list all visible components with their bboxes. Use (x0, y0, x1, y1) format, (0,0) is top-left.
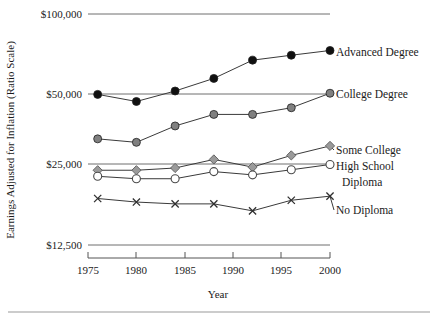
ytick-label-50000: $50,000 (46, 88, 82, 100)
x-axis (88, 252, 330, 258)
datapoint-1976 (94, 172, 102, 180)
datapoint-1988 (210, 74, 218, 82)
ytick-label-25000: $25,000 (46, 158, 82, 170)
data-series-layer (93, 46, 335, 214)
datapoint-1992 (249, 56, 257, 64)
xtick-label-2000: 2000 (319, 264, 342, 276)
series-label-high-school: High School (336, 160, 394, 173)
datapoint-1984 (171, 87, 179, 95)
ytick-label-12500: $12,500 (46, 239, 82, 251)
ytick-label-100000: $100,000 (41, 8, 83, 20)
chart-figure: $100,000 $50,000 $25,000 $12,500 1975 19… (0, 0, 438, 319)
series-label-no-diploma: No Diploma (336, 204, 393, 217)
x-axis-title: Year (208, 288, 229, 300)
datapoint-1984 (171, 122, 179, 130)
datapoint-1980 (132, 138, 140, 146)
y-axis-tick-labels: $100,000 $50,000 $25,000 $12,500 (41, 8, 83, 251)
xtick-label-1990: 1990 (222, 264, 245, 276)
datapoint-1996 (287, 104, 295, 112)
series-college-degree (94, 89, 334, 146)
datapoint-1980 (132, 97, 140, 105)
datapoint-1996 (287, 166, 295, 174)
gridlines (88, 14, 330, 245)
datapoint-2000 (326, 46, 334, 54)
x-axis-tick-labels: 1975 1980 1985 1990 1995 2000 (77, 264, 342, 276)
series-labels: Advanced Degree College Degree Some Coll… (336, 46, 419, 217)
datapoint-1988 (210, 110, 218, 118)
xtick-label-1995: 1995 (270, 264, 293, 276)
series-label-some-college: Some College (336, 144, 401, 157)
datapoint-1992 (249, 171, 257, 179)
xtick-label-1975: 1975 (77, 264, 100, 276)
series-label-high-school-line2: Diploma (342, 176, 382, 189)
datapoint-1992 (249, 110, 257, 118)
xtick-label-1980: 1980 (125, 264, 148, 276)
datapoint-2000 (326, 161, 334, 169)
datapoint-1988 (209, 155, 218, 164)
datapoint-2000 (326, 89, 334, 97)
datapoint-1984 (171, 175, 179, 183)
xtick-label-1985: 1985 (174, 264, 197, 276)
datapoint-1988 (210, 168, 218, 176)
series-advanced-degree (94, 46, 334, 105)
series-label-college-degree: College Degree (336, 88, 408, 101)
earnings-by-education-line-chart: $100,000 $50,000 $25,000 $12,500 1975 19… (0, 0, 438, 319)
series-no-diploma (94, 193, 334, 215)
datapoint-1980 (132, 175, 140, 183)
series-label-advanced-degree: Advanced Degree (336, 46, 419, 59)
y-axis-title: Earnings Adjusted for Inflation (Ratio S… (4, 41, 17, 239)
datapoint-1980 (132, 166, 141, 175)
datapoint-1984 (171, 163, 180, 172)
datapoint-1976 (94, 135, 102, 143)
datapoint-1996 (287, 151, 296, 160)
datapoint-1996 (287, 51, 295, 59)
datapoint-1976 (94, 90, 102, 98)
